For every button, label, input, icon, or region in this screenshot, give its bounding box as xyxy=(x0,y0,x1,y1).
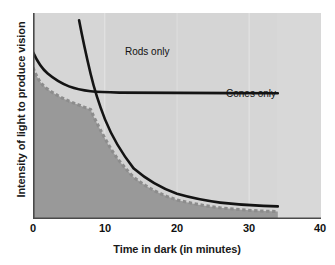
cones-curve-label: Cones only xyxy=(226,88,276,99)
x-tick-label-10: 10 xyxy=(99,222,111,234)
plot-area: Rods only Cones only xyxy=(33,13,321,219)
x-tick-label-40: 40 xyxy=(314,222,326,234)
rods-curve-label: Rods only xyxy=(125,46,169,57)
x-tick-label-20: 20 xyxy=(171,222,183,234)
dark-adaptation-chart: Intensity of light to produce vision xyxy=(0,0,335,265)
x-axis-title: Time in dark (in minutes) xyxy=(33,243,321,255)
x-tick-label-0: 0 xyxy=(30,222,36,234)
y-axis-title: Intensity of light to produce vision xyxy=(8,0,34,219)
x-tick-label-30: 30 xyxy=(243,222,255,234)
plot-svg xyxy=(33,13,321,219)
